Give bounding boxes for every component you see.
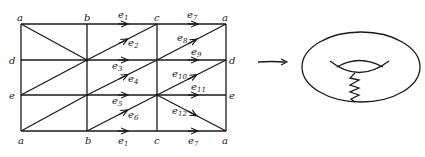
- vertex-label: e: [9, 90, 15, 101]
- torus-outer-outline: [302, 32, 420, 102]
- edge-label-e9: e9: [191, 46, 202, 59]
- edge-label-e3: e3: [112, 60, 123, 73]
- edge-label-e1-bottom: e1: [118, 135, 128, 148]
- vertex-label: b: [85, 135, 91, 146]
- edge-label-e4: e4: [128, 73, 138, 86]
- edge-label-e1-top: e1: [118, 9, 128, 22]
- diagonal: [21, 95, 87, 131]
- vertex-label: e: [229, 90, 235, 101]
- arrow-icon: [188, 75, 196, 79]
- vertex-label: a: [222, 135, 228, 146]
- torus-hole-lower-arc: [330, 61, 389, 73]
- edge-label-e5: e5: [112, 95, 123, 108]
- edge-label-e7-top: e7: [187, 9, 198, 22]
- triangulation-to-torus-diagram: a b c a a b c a d e d e e1 e2 e3 e4 e5 e…: [0, 0, 425, 157]
- torus-icon: [302, 32, 420, 102]
- arrow-icon: [188, 40, 196, 44]
- vertex-label: c: [154, 12, 160, 23]
- vertex-label: d: [229, 55, 235, 66]
- arrow-icon: [188, 111, 196, 115]
- edge-label-e6: e6: [128, 109, 139, 122]
- vertex-label: d: [9, 55, 15, 66]
- vertex-dot: [85, 58, 88, 61]
- edge-label-e8: e8: [177, 32, 188, 45]
- diagonal: [21, 24, 87, 60]
- edge-label-e2: e2: [128, 37, 139, 50]
- vertex-label: b: [84, 12, 90, 23]
- edge-label-e11: e11: [191, 81, 206, 94]
- arrow-icon: [119, 39, 127, 43]
- vertex-label: a: [17, 12, 23, 23]
- triangulated-square: [21, 24, 226, 131]
- vertex-dot: [155, 93, 158, 96]
- edge-label-e10: e10: [172, 68, 187, 81]
- vertex-label: a: [18, 135, 24, 146]
- arrow-icon: [119, 75, 127, 79]
- vertex-label: c: [154, 135, 160, 146]
- map-arrow-icon: [258, 59, 287, 65]
- vertex-labels: a b c a a b c a d e d e: [9, 12, 235, 146]
- diagonal: [21, 60, 87, 95]
- vertex-label: a: [222, 12, 228, 23]
- zigzag-cut: [350, 73, 359, 102]
- edge-labels: e1 e2 e3 e4 e5 e6 e7 e8 e9 e10 e11 e12 e…: [112, 9, 206, 148]
- arrow-icon: [119, 110, 127, 114]
- edge-label-e7-bottom: e7: [188, 135, 199, 148]
- torus-hole-upper-arc: [337, 61, 383, 68]
